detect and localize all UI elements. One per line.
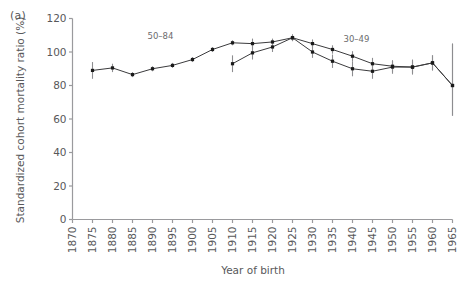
- x-tick-label: 1895: [166, 227, 178, 254]
- x-tick-label: 1910: [226, 227, 238, 254]
- y-axis-ticks: 020406080100120: [46, 12, 72, 225]
- y-tick-label: 40: [53, 146, 66, 158]
- x-tick-label: 1930: [306, 227, 318, 254]
- x-tick-label: 1955: [406, 227, 418, 254]
- x-tick-label: 1920: [266, 227, 278, 254]
- x-tick-label: 1880: [106, 227, 118, 254]
- x-tick-label: 1965: [446, 227, 458, 254]
- x-tick-label: 1875: [86, 227, 98, 254]
- x-tick-label: 1915: [246, 227, 258, 254]
- x-tick-label: 1960: [426, 227, 438, 254]
- figure-panel: (a) 020406080100120 18701875188018851890…: [0, 0, 460, 281]
- line-chart: 020406080100120 187018751880188518901895…: [0, 0, 460, 281]
- chart-axes: [73, 19, 453, 220]
- series-label-30-49: 30–49: [344, 34, 370, 44]
- y-tick-label: 80: [53, 79, 66, 91]
- y-tick-label: 120: [46, 12, 66, 24]
- y-tick-label: 0: [60, 213, 67, 225]
- series-annotations: 50–8430–49: [148, 31, 370, 44]
- y-tick-label: 60: [53, 113, 66, 125]
- y-tick-label: 100: [46, 46, 66, 58]
- y-axis-title: Standardized cohort mortality ratio (%): [14, 17, 26, 223]
- x-tick-label: 1870: [66, 227, 78, 254]
- x-tick-label: 1925: [286, 227, 298, 254]
- x-axis-ticks: 1870187518801885189018951900190519101915…: [66, 220, 458, 254]
- x-tick-label: 1885: [126, 227, 138, 254]
- x-tick-label: 1890: [146, 227, 158, 254]
- x-axis-title: Year of birth: [220, 264, 285, 276]
- x-tick-label: 1940: [346, 227, 358, 254]
- x-tick-label: 1950: [386, 227, 398, 254]
- x-tick-label: 1945: [366, 227, 378, 254]
- y-tick-label: 20: [53, 180, 66, 192]
- x-tick-label: 1905: [206, 227, 218, 254]
- x-tick-label: 1900: [186, 227, 198, 254]
- series-label-50-84: 50–84: [148, 31, 174, 41]
- x-tick-label: 1935: [326, 227, 338, 254]
